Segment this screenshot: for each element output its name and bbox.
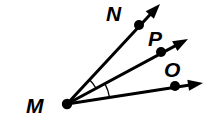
point-o-dot: [170, 81, 180, 91]
point-label-n: N: [106, 2, 122, 25]
geometry-figure: M N P O: [0, 0, 215, 131]
point-n-dot: [134, 20, 144, 30]
figure-canvas: M N P O: [0, 0, 215, 131]
point-label-p: P: [148, 27, 163, 50]
vertex-m-dot: [62, 99, 72, 109]
point-label-m: M: [26, 94, 44, 117]
point-label-o: O: [164, 58, 180, 81]
